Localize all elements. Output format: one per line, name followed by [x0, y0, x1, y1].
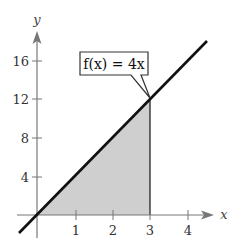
- function-label-callout: f(x) = 4x: [80, 52, 150, 98]
- y-tick-label-4: 4: [21, 170, 29, 185]
- x-tick-label-2: 2: [109, 223, 117, 238]
- chart-canvas: f(x) = 4x 1 2 3 4 4 8 12 16 x y: [0, 0, 231, 242]
- y-axis-label: y: [32, 12, 41, 27]
- x-tick-label-1: 1: [72, 223, 80, 238]
- function-label-text: f(x) = 4x: [83, 56, 145, 72]
- y-tick-label-8: 8: [21, 131, 29, 146]
- y-axis: [32, 31, 42, 238]
- y-tick-label-16: 16: [12, 54, 29, 69]
- y-tick-label-12: 12: [12, 92, 29, 107]
- x-tick-label-4: 4: [184, 223, 192, 238]
- x-axis-label: x: [220, 207, 228, 222]
- x-tick-label-3: 3: [146, 223, 154, 238]
